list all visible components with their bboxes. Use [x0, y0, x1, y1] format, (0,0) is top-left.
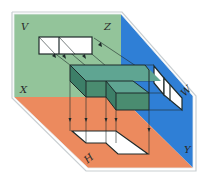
block-front-face-right — [116, 93, 149, 110]
projection-diagram: V Z X W H Y — [0, 0, 205, 182]
front-view-projection — [39, 37, 92, 54]
label-x: X — [19, 84, 28, 95]
block-front-face-left — [86, 81, 106, 97]
label-z: Z — [103, 21, 112, 32]
